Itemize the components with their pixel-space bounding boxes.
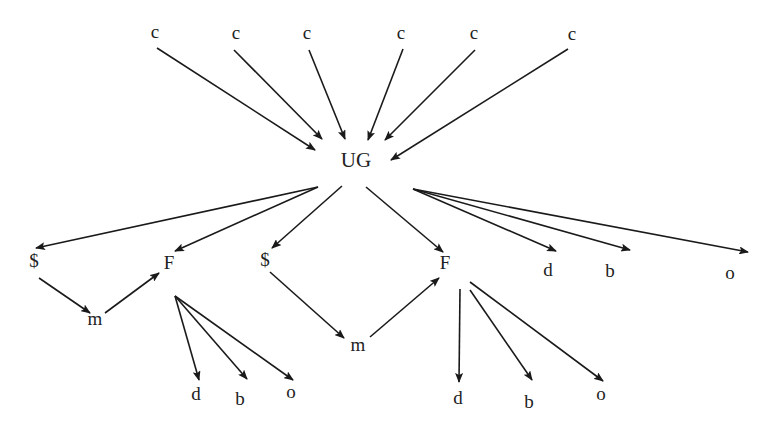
edges bbox=[36, 48, 748, 382]
arrow-UG-to-s1 bbox=[36, 187, 318, 248]
arrow-UG-to-b1 bbox=[413, 189, 630, 250]
arrow-c5-to-UG bbox=[385, 50, 475, 140]
node-d1: d bbox=[543, 259, 553, 280]
arrow-c3-to-UG bbox=[309, 50, 345, 139]
nodes: ccccccUG$Fm$Fmdbodbodbo bbox=[29, 21, 735, 412]
node-F1: F bbox=[164, 252, 175, 273]
node-s1: $ bbox=[29, 250, 39, 271]
arrow-F2-to-o3 bbox=[470, 282, 603, 381]
node-m1: m bbox=[88, 308, 103, 329]
tree-diagram: ccccccUG$Fm$Fmdbodbodbo bbox=[0, 0, 771, 439]
node-b1: b bbox=[605, 260, 615, 281]
node-c6: c bbox=[568, 23, 576, 44]
node-F2: F bbox=[440, 252, 451, 273]
node-m2: m bbox=[351, 334, 366, 355]
node-s2: $ bbox=[260, 249, 270, 270]
node-b2: b bbox=[235, 388, 245, 409]
arrow-c1-to-UG bbox=[157, 48, 315, 150]
arrow-F2-to-b3 bbox=[470, 290, 532, 380]
node-o1: o bbox=[725, 262, 735, 283]
arrow-F2-to-d3 bbox=[459, 289, 460, 382]
node-c4: c bbox=[397, 22, 405, 43]
arrow-F1-to-o2 bbox=[175, 296, 293, 380]
node-d3: d bbox=[453, 387, 463, 408]
node-c5: c bbox=[470, 22, 478, 43]
arrow-UG-to-o1 bbox=[413, 189, 748, 252]
arrow-UG-to-F1 bbox=[175, 187, 318, 251]
node-c3: c bbox=[303, 22, 311, 43]
node-o3: o bbox=[596, 383, 606, 404]
arrow-F1-to-b2 bbox=[175, 296, 247, 379]
arrow-s1-to-m1 bbox=[39, 278, 90, 313]
node-o2: o bbox=[286, 381, 296, 402]
node-c1: c bbox=[151, 21, 159, 42]
arrow-UG-to-d1 bbox=[413, 189, 556, 251]
arrow-m1-to-F1 bbox=[105, 273, 159, 313]
node-UG: UG bbox=[341, 148, 371, 172]
node-d2: d bbox=[191, 383, 201, 404]
node-b3: b bbox=[524, 391, 534, 412]
arrow-s2-to-m2 bbox=[270, 272, 344, 338]
arrow-F1-to-d2 bbox=[175, 296, 199, 380]
node-c2: c bbox=[232, 22, 240, 43]
arrow-m2-to-F2 bbox=[370, 278, 439, 337]
arrow-c6-to-UG bbox=[391, 49, 568, 160]
